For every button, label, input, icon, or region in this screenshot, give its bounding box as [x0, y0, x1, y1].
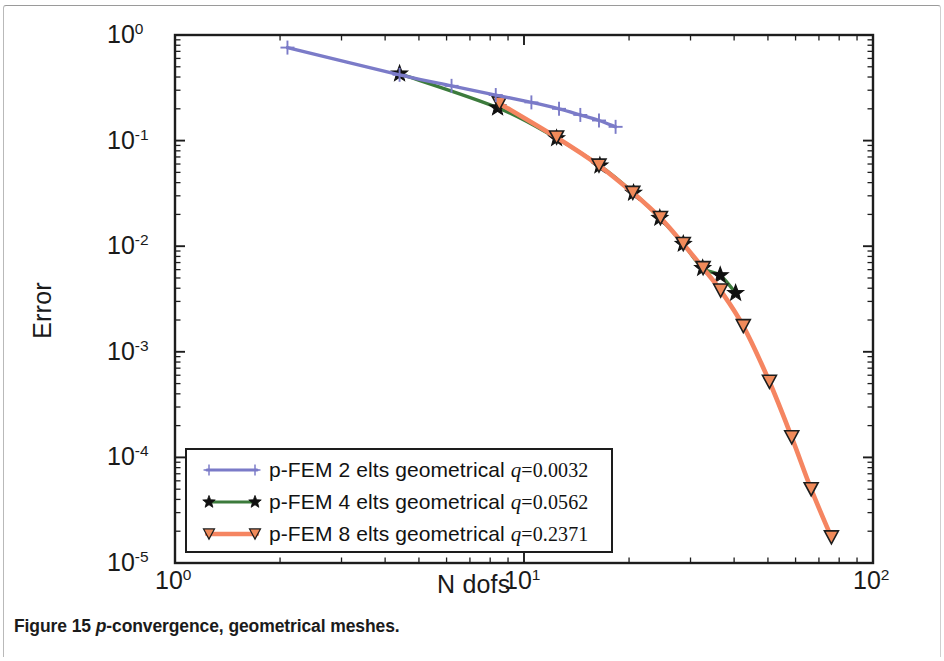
legend-item-label: p-FEM 4 elts geometrical q=0.0562: [269, 490, 588, 515]
y-tick-label: 100: [107, 20, 143, 49]
legend-marker-line-star: [195, 489, 269, 515]
x-tick-label: 100: [155, 566, 191, 595]
chart-legend: p-FEM 2 elts geometrical q=0.0032 p-FEM …: [185, 448, 613, 553]
x-tick-label: 102: [853, 566, 889, 595]
legend-item[interactable]: p-FEM 8 elts geometrical q=0.2371: [187, 518, 611, 550]
y-axis-title: Error: [28, 251, 57, 371]
legend-item-label: p-FEM 8 elts geometrical q=0.2371: [269, 522, 588, 547]
y-tick-label: 10-1: [107, 126, 149, 155]
figure-plot-area: 100 10-1 10-2 10-3 10-4 10-5 100 101 102…: [0, 0, 944, 600]
legend-item[interactable]: p-FEM 4 elts geometrical q=0.0562: [187, 486, 611, 518]
y-tick-label: 10-5: [107, 548, 149, 577]
legend-item[interactable]: p-FEM 2 elts geometrical q=0.0032: [187, 454, 611, 486]
legend-item-label: p-FEM 2 elts geometrical q=0.0032: [269, 458, 588, 483]
figure-page: 100 10-1 10-2 10-3 10-4 10-5 100 101 102…: [0, 0, 944, 661]
y-tick-label: 10-4: [107, 442, 149, 471]
legend-marker-line-plus: [195, 457, 269, 483]
y-tick-label: 10-2: [107, 231, 149, 260]
x-axis-title: N dofs: [437, 570, 510, 599]
figure-caption: Figure 15 p-convergence, geometrical mes…: [14, 616, 914, 637]
legend-marker-line-triangle: [195, 521, 269, 547]
y-tick-label: 10-3: [107, 337, 149, 366]
